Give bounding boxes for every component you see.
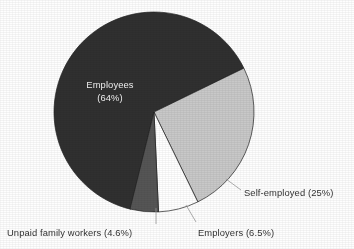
slice-label-employers: Employers (6.5%) bbox=[198, 227, 274, 238]
slice-label-employees-line1: Employees bbox=[86, 79, 133, 90]
slice-label-employees-line2: (64%) bbox=[97, 92, 123, 103]
pie-chart-figure: Employees (64%) Self-employed (25%) Empl… bbox=[0, 0, 354, 249]
pie-chart-svg: Employees (64%) Self-employed (25%) Empl… bbox=[0, 0, 354, 249]
leader-line-self-employed bbox=[226, 179, 241, 190]
slice-label-unpaid-family-workers: Unpaid family workers (4.6%) bbox=[7, 227, 132, 238]
slice-label-self-employed: Self-employed (25%) bbox=[244, 187, 333, 198]
leader-line-employers bbox=[186, 205, 196, 222]
